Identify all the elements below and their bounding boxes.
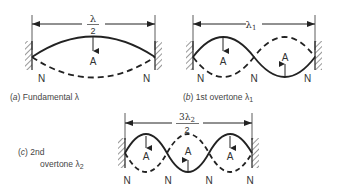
caption-a: (a) Fundamental λ [10, 92, 80, 102]
wall-left-a [25, 41, 32, 70]
wall-right-c [252, 138, 259, 168]
diagram-a-fundamental: λ 2 A N N (a) Fundamental λ [10, 13, 162, 102]
dimension-label-c-num: 3λ2 [179, 112, 195, 124]
diagram-b-first-overtone: λ1 A A N N N (b) 1st overtone λ1 [183, 15, 322, 103]
dimension-label-a-num: λ [90, 13, 97, 24]
wall-left-c [118, 138, 125, 168]
antinode-label-b-1: A [220, 56, 227, 67]
node-label-c-1: N [123, 175, 130, 186]
antinode-label-c-2: A [185, 146, 192, 157]
standing-waves-diagram: λ 2 A N N (a) Fundamental λ λ [0, 0, 338, 189]
antinode-label-b-2: A [282, 52, 289, 63]
node-label-b-middle: N [250, 73, 257, 84]
node-label-a-right: N [143, 73, 150, 84]
node-label-b-left: N [197, 73, 204, 84]
diagram-c-second-overtone: 3λ2 2 A A A N N N N (c) 2nd overtone λ2 [18, 112, 259, 186]
dimension-label-b: λ1 [246, 19, 257, 32]
wall-left-b [186, 41, 193, 70]
dimension-line-c: 3λ2 2 [125, 112, 252, 140]
dimension-line-b: λ1 [193, 15, 315, 50]
caption-b: (b) 1st overtone λ1 [183, 92, 253, 103]
node-label-c-4: N [246, 175, 253, 186]
antinode-label-a: A [90, 56, 97, 67]
node-label-b-right: N [304, 73, 311, 84]
wall-right-b [315, 41, 322, 70]
node-label-c-3: N [205, 175, 212, 186]
antinode-label-c-1: A [143, 151, 150, 162]
antinode-label-c-3: A [227, 151, 234, 162]
node-label-c-2: N [164, 175, 171, 186]
wave-dashed-b [193, 37, 315, 77]
wall-right-a [155, 41, 162, 70]
node-label-a-left: N [38, 73, 45, 84]
caption-c-line1: (c) 2nd [18, 147, 45, 157]
dimension-label-a-den: 2 [90, 26, 95, 36]
caption-c-line2: overtone λ2 [40, 159, 84, 170]
